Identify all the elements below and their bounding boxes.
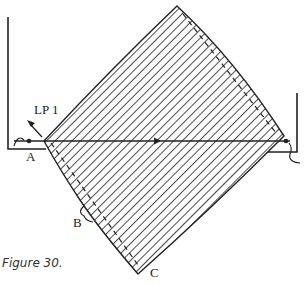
right-yarn-dot [284, 139, 289, 144]
left-wall [8, 17, 46, 149]
right-yarn-tail [289, 143, 300, 163]
hatched-fabric [0, 0, 306, 284]
diagram-canvas [0, 0, 306, 284]
left-yarn-dot [27, 139, 32, 144]
figure-caption: Figure 30. [2, 256, 63, 270]
label-a: A [26, 150, 35, 163]
label-c: C [150, 266, 159, 279]
left-yarn-tail [14, 138, 24, 146]
lp1-arrowhead [27, 120, 35, 127]
label-lp1: LP 1 [34, 103, 58, 116]
label-b: B [73, 216, 82, 229]
